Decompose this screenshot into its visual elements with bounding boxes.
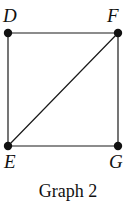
vertex-F	[114, 29, 122, 37]
vertex-label-G: G	[109, 152, 123, 171]
figure-caption: Graph 2	[0, 181, 136, 201]
vertex-D	[4, 29, 12, 37]
vertex-G	[114, 142, 122, 150]
vertex-label-E: E	[4, 152, 16, 171]
graph-edges	[8, 33, 118, 146]
graph-drawing	[0, 0, 136, 205]
vertex-E	[4, 142, 12, 150]
edge-E-F	[8, 33, 118, 146]
vertex-label-F: F	[107, 6, 119, 25]
vertex-label-D: D	[3, 6, 17, 25]
graph-figure: D F E G Graph 2	[0, 0, 136, 205]
